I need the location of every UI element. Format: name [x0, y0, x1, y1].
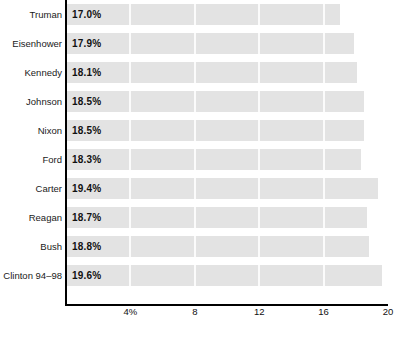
bar	[66, 62, 357, 83]
source-note	[0, 331, 398, 339]
bar	[66, 149, 361, 170]
bar-track: 18.8%	[66, 232, 398, 261]
bar-track: 19.6%	[66, 261, 398, 290]
bar	[66, 178, 378, 199]
chart-row: Nixon18.5%	[0, 116, 398, 145]
chart-row: Clinton 94–9819.6%	[0, 261, 398, 290]
bar-chart: Truman17.0%Eisenhower17.9%Kennedy18.1%Jo…	[0, 0, 398, 339]
bar	[66, 120, 364, 141]
category-label: Eisenhower	[0, 39, 66, 49]
bar	[66, 4, 340, 25]
bar-track: 17.0%	[66, 0, 398, 29]
bar-value-label: 18.7%	[72, 203, 101, 232]
category-label: Carter	[0, 184, 66, 194]
bar-track: 18.1%	[66, 58, 398, 87]
bar	[66, 236, 369, 257]
category-label: Bush	[0, 242, 66, 252]
chart-rows: Truman17.0%Eisenhower17.9%Kennedy18.1%Jo…	[0, 0, 398, 305]
bar	[66, 33, 354, 54]
y-axis-line	[65, 0, 67, 306]
bar-value-label: 18.5%	[72, 87, 101, 116]
x-tick-label: 16	[318, 307, 329, 317]
category-label: Nixon	[0, 126, 66, 136]
chart-row: Johnson18.5%	[0, 87, 398, 116]
bar-value-label: 17.0%	[72, 0, 101, 29]
bar	[66, 91, 364, 112]
bar-value-label: 18.5%	[72, 116, 101, 145]
x-tick-label: 4%	[124, 307, 138, 317]
category-label: Reagan	[0, 213, 66, 223]
x-axis-ticks: 4%8121620	[0, 307, 398, 323]
x-axis-line	[65, 304, 388, 306]
bar-track: 18.5%	[66, 87, 398, 116]
chart-row: Ford18.3%	[0, 145, 398, 174]
category-label: Ford	[0, 155, 66, 165]
bar-value-label: 19.4%	[72, 174, 101, 203]
chart-row: Carter19.4%	[0, 174, 398, 203]
bar-track: 18.3%	[66, 145, 398, 174]
bar-track: 18.5%	[66, 116, 398, 145]
bar-value-label: 18.8%	[72, 232, 101, 261]
category-label: Johnson	[0, 97, 66, 107]
category-label: Clinton 94–98	[0, 271, 66, 281]
bar-track: 17.9%	[66, 29, 398, 58]
x-tick-label: 20	[383, 307, 394, 317]
bar	[66, 265, 382, 286]
bar-track: 18.7%	[66, 203, 398, 232]
bar-value-label: 18.1%	[72, 58, 101, 87]
bar	[66, 207, 367, 228]
chart-row: Truman17.0%	[0, 0, 398, 29]
chart-row: Bush18.8%	[0, 232, 398, 261]
category-label: Kennedy	[0, 68, 66, 78]
x-tick-label: 8	[192, 307, 197, 317]
x-tick-label: 12	[254, 307, 265, 317]
bar-value-label: 17.9%	[72, 29, 101, 58]
bar-value-label: 18.3%	[72, 145, 101, 174]
chart-row: Eisenhower17.9%	[0, 29, 398, 58]
bar-value-label: 19.6%	[72, 261, 101, 290]
bar-track: 19.4%	[66, 174, 398, 203]
chart-row: Reagan18.7%	[0, 203, 398, 232]
chart-row: Kennedy18.1%	[0, 58, 398, 87]
category-label: Truman	[0, 10, 66, 20]
